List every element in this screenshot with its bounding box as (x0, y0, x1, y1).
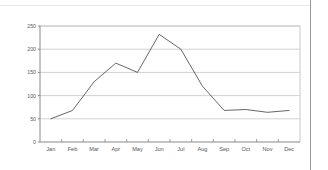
y-axis-tick-label: 250 (27, 23, 36, 29)
x-axis-tick-label: May (132, 146, 143, 152)
x-axis-tick-label: Jan (46, 146, 55, 152)
line-chart: 050100150200250 JanFebMarAprMayJunJulAug… (0, 0, 310, 170)
y-axis-tick-labels: 050100150200250 (27, 23, 36, 145)
x-axis-tick-label: Jul (177, 146, 184, 152)
page-root: 050100150200250 JanFebMarAprMayJunJulAug… (0, 0, 328, 170)
y-axis-tick-label: 50 (30, 116, 36, 122)
x-axis-tick-label: Sep (219, 146, 229, 152)
chart-canvas: 050100150200250 JanFebMarAprMayJunJulAug… (0, 0, 310, 170)
x-axis-tick-label: Oct (241, 146, 250, 152)
x-axis-tick-label: Feb (68, 146, 78, 152)
x-axis-tick-label: Jun (155, 146, 164, 152)
x-axis-tick-label: Mar (89, 146, 99, 152)
x-axis-tick-label: Nov (263, 146, 273, 152)
y-axis-tick-label: 150 (27, 69, 36, 75)
x-axis-tick-label: Dec (284, 146, 294, 152)
y-axis-tick-label: 200 (27, 46, 36, 52)
y-axis-tick-label: 0 (33, 139, 36, 145)
page-right-border (310, 0, 311, 170)
plot-background (40, 26, 300, 142)
x-axis-tick-label: Aug (198, 146, 208, 152)
x-axis-tick-label: Apr (111, 146, 120, 152)
x-axis-tick-labels: JanFebMarAprMayJunJulAugSepOctNovDec (46, 146, 294, 152)
y-axis-tick-label: 100 (27, 93, 36, 99)
